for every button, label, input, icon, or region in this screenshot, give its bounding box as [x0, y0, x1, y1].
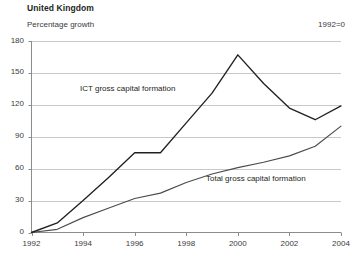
x-axis-label: 2002 — [272, 239, 306, 248]
x-axis-label: 2000 — [221, 239, 255, 248]
series-label-total: Total gross capital formation — [206, 174, 306, 183]
x-axis-label: 1992 — [15, 239, 49, 248]
x-axis-label: 1994 — [66, 239, 100, 248]
chart-plot-area — [0, 0, 353, 261]
y-axis-label: 150 — [2, 67, 24, 76]
y-axis-label: 30 — [2, 195, 24, 204]
y-axis-label: 180 — [2, 36, 24, 45]
y-axis-label: 120 — [2, 99, 24, 108]
y-axis-label: 60 — [2, 163, 24, 172]
chart-figure: United Kingdom Percentage growth 1992=0 … — [0, 0, 353, 261]
x-axis-label: 1998 — [169, 239, 203, 248]
series-line-ict-gross-capital-formation — [32, 55, 342, 233]
axes — [32, 41, 342, 233]
x-tick-marks — [33, 233, 342, 237]
x-axis-label: 1996 — [118, 239, 152, 248]
series-label-ict: ICT gross capital formation — [80, 84, 175, 93]
y-axis-label: 90 — [2, 131, 24, 140]
y-axis-label: 0 — [2, 227, 24, 236]
x-axis-label: 2004 — [324, 239, 353, 248]
